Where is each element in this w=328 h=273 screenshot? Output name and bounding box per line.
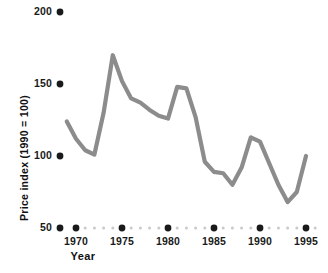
x-axis-minor-tick-dot <box>93 227 96 230</box>
x-axis-minor-tick-dot <box>148 227 151 230</box>
x-axis-minor-tick-dot <box>139 227 142 230</box>
x-axis-tick-label: 1990 <box>239 235 281 247</box>
x-axis-minor-tick-dot <box>277 227 280 230</box>
x-axis-minor-tick-dot <box>314 227 317 230</box>
chart-container: 50100150200 197019751980198519901995 Pri… <box>0 0 328 273</box>
x-axis-minor-tick-dot <box>130 227 133 230</box>
x-axis-tick-label: 1985 <box>193 235 235 247</box>
x-axis-major-tick-dot <box>119 225 126 232</box>
price-index-line <box>67 55 306 202</box>
x-axis-title: Year <box>44 250 122 262</box>
x-axis-tick-label: 1980 <box>147 235 189 247</box>
x-axis-minor-tick-dot <box>176 227 179 230</box>
x-axis-minor-tick-dot <box>249 227 252 230</box>
x-axis-tick-label: 1975 <box>101 235 143 247</box>
y-axis-tick-dot <box>57 225 64 232</box>
x-axis-minor-tick-dot <box>194 227 197 230</box>
y-axis-tick-dots <box>57 9 64 232</box>
x-axis-minor-tick-dot <box>102 227 105 230</box>
y-axis-title: Price index (1990 = 100) <box>18 78 30 238</box>
x-axis-major-tick-dot <box>257 225 264 232</box>
x-axis-minor-tick-dot <box>203 227 206 230</box>
x-axis-major-tick-dot <box>303 225 310 232</box>
x-axis-major-tick-dot <box>73 225 80 232</box>
x-axis-minor-tick-dot <box>84 227 87 230</box>
y-axis-tick-label: 200 <box>14 5 52 17</box>
x-axis-major-tick-dot <box>165 225 172 232</box>
x-axis-minor-tick-dot <box>240 227 243 230</box>
x-axis-major-tick-dots <box>73 225 310 232</box>
x-axis-minor-tick-dot <box>185 227 188 230</box>
y-axis-tick-dot <box>57 9 64 16</box>
x-axis-minor-tick-dot <box>111 227 114 230</box>
x-axis-minor-tick-dot <box>231 227 234 230</box>
x-axis-minor-tick-dot <box>286 227 289 230</box>
x-axis-minor-tick-dot <box>268 227 271 230</box>
x-axis-minor-tick-dot <box>295 227 298 230</box>
x-axis-minor-tick-dot <box>157 227 160 230</box>
x-axis-tick-label: 1970 <box>55 235 97 247</box>
x-axis-tick-label: 1995 <box>285 235 327 247</box>
y-axis-tick-dot <box>57 81 64 88</box>
x-axis-minor-tick-dot <box>222 227 225 230</box>
y-axis-tick-dot <box>57 153 64 160</box>
x-axis-major-tick-dot <box>211 225 218 232</box>
